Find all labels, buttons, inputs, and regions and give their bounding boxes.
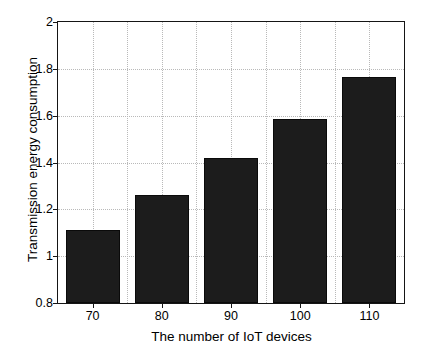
y-tick-mark <box>53 163 58 164</box>
y-tick-mark <box>53 69 58 70</box>
y-tick-mark <box>53 209 58 210</box>
x-gridline <box>335 22 336 303</box>
bar-110 <box>342 77 396 303</box>
x-gridline <box>127 22 128 303</box>
y-tick-label: 1.4 <box>36 156 53 170</box>
y-tick-mark <box>53 256 58 257</box>
x-tick-mark <box>93 303 94 308</box>
x-tick-mark <box>162 303 163 308</box>
x-gridline <box>266 22 267 303</box>
bar-70 <box>66 230 120 303</box>
x-tick-label: 100 <box>290 309 311 323</box>
y-tick-mark <box>53 303 58 304</box>
x-tick-mark <box>300 303 301 308</box>
bar-90 <box>204 158 258 303</box>
figure-canvas: Transmission energy consumption 0.811.21… <box>0 0 425 355</box>
plot-area: 0.811.21.41.61.82708090100110 <box>57 21 405 304</box>
x-tick-mark <box>231 303 232 308</box>
y-tick-mark <box>53 22 58 23</box>
bar-80 <box>135 195 189 303</box>
x-tick-label: 110 <box>359 309 379 323</box>
y-tick-mark <box>53 116 58 117</box>
y-tick-label: 1.2 <box>36 202 53 216</box>
bar-100 <box>273 119 327 303</box>
plot-inner: 0.811.21.41.61.82708090100110 <box>58 22 404 303</box>
x-gridline <box>196 22 197 303</box>
y-tick-label: 1 <box>46 249 53 263</box>
x-tick-label: 90 <box>224 309 238 323</box>
y-tick-label: 0.8 <box>36 296 53 310</box>
y-tick-label: 2 <box>46 15 53 29</box>
y-tick-label: 1.8 <box>36 62 53 76</box>
y-tick-label: 1.6 <box>36 109 53 123</box>
x-axis-title: The number of IoT devices <box>57 329 406 344</box>
x-tick-mark <box>369 303 370 308</box>
x-tick-label: 70 <box>86 309 100 323</box>
x-tick-label: 80 <box>155 309 169 323</box>
